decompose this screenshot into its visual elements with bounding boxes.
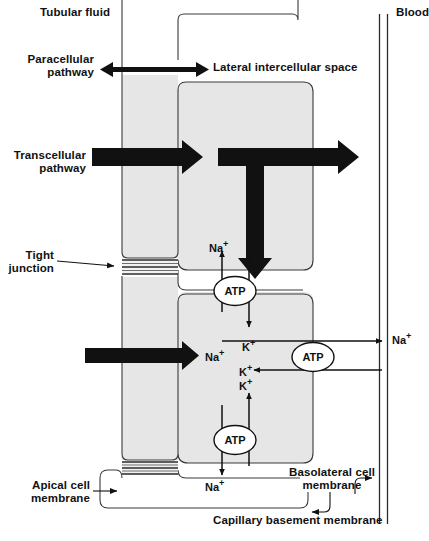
label-apical-cell-membrane: Apical cellmembrane (4, 479, 90, 504)
paracellular-pathway-arrow (100, 62, 209, 77)
label-transcellular-pathway: Transcellularpathway (2, 149, 86, 174)
basolateral-leader (312, 492, 330, 512)
label-blood: Blood (396, 6, 429, 19)
ion-label-sodium-in-apical-lower: Na+ (205, 478, 224, 493)
capillary-basement-membrane-lines (380, 14, 388, 524)
label-basolateral-cell-membrane: Basolateral cellmembrane (284, 466, 380, 491)
tight-junction-lower (122, 461, 178, 474)
upper-epithelial-cell (122, 0, 313, 270)
ion-label-potassium-in-apical-upper: K+ (242, 338, 255, 353)
ion-label-sodium-out-basolateral: Na+ (392, 331, 411, 346)
pump-label: ATP (224, 434, 245, 446)
ion-label-potassium-in-basolateral: K+ (239, 363, 252, 378)
label-tight-junction: Tightjunction (0, 249, 54, 274)
label-lateral-intercellular-space: Lateral intercellular space (213, 61, 358, 74)
ion-label-sodium-influx: Na+ (205, 348, 224, 363)
tight-junction-leader (57, 261, 114, 266)
ion-label-sodium-out-apical-upper: Na+ (209, 239, 228, 254)
pump-apical-lower: ATP (214, 426, 256, 455)
label-capillary-basement-membrane: Capillary basement membrane (213, 514, 383, 527)
pump-label: ATP (302, 351, 323, 363)
pump-basolateral: ATP (292, 343, 334, 372)
basement-outline (100, 470, 308, 508)
tight-junction-upper (122, 259, 178, 274)
ion-label-potassium-out-apical-lower: K+ (239, 377, 252, 392)
label-tubular-fluid: Tubular fluid (40, 6, 110, 19)
label-paracellular-pathway: Paracellularpathway (6, 53, 94, 78)
pump-label: ATP (224, 285, 245, 297)
pump-apical-upper: ATP (214, 277, 256, 306)
